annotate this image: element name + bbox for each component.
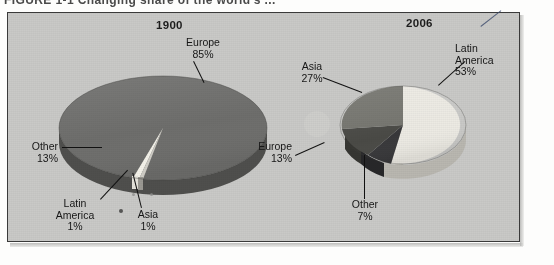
label-2006-asia: Asia 27% — [292, 61, 332, 84]
figure-caption-strip: FIGURE 1-1 Changing share of the world's… — [0, 0, 554, 11]
label-2006-europe: Europe 13% — [244, 141, 292, 164]
scan-blur-artifact — [304, 111, 330, 137]
panel-shadow-bottom — [10, 243, 523, 247]
label-1900-europe: Europe 85% — [176, 37, 230, 60]
label-1900-asia: Asia 1% — [130, 209, 166, 232]
scan-speck-3 — [119, 209, 123, 213]
scan-speck-1 — [132, 193, 135, 196]
figure-panel: 1900 Euro — [7, 12, 520, 242]
pie-chart-2006 — [328, 73, 478, 193]
chart-title-2006: 2006 — [406, 17, 433, 29]
leader-1900-other — [62, 147, 102, 148]
leader-2006-europe — [295, 142, 325, 156]
figure-scan: FIGURE 1-1 Changing share of the world's… — [0, 0, 554, 265]
panel-shadow-right — [520, 15, 524, 246]
label-2006-other: Other 7% — [341, 199, 389, 222]
scan-speck-2 — [150, 193, 153, 196]
label-1900-latin-america: Latin America 1% — [46, 198, 104, 233]
figure-caption-text: FIGURE 1-1 Changing share of the world's… — [4, 0, 276, 7]
pie-chart-1900 — [53, 68, 273, 193]
label-1900-other: Other 13% — [16, 141, 58, 164]
leader-2006-other — [364, 155, 365, 199]
chart-title-1900: 1900 — [156, 19, 183, 31]
